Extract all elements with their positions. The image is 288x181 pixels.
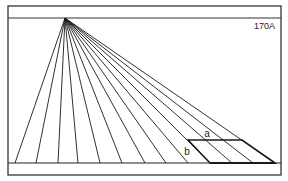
perspective-fan-diagram: 170A a b bbox=[0, 0, 288, 181]
fan-line bbox=[65, 18, 78, 163]
label-b: b bbox=[184, 146, 190, 157]
fan-line bbox=[65, 18, 232, 163]
fan-lines bbox=[15, 18, 275, 163]
highlighted-grid-cell bbox=[188, 140, 275, 163]
fan-line bbox=[65, 18, 145, 163]
fan-line bbox=[58, 18, 65, 163]
figure-id-label: 170A bbox=[254, 21, 275, 31]
outer-frame bbox=[8, 6, 281, 175]
label-a: a bbox=[204, 128, 210, 139]
fan-line bbox=[65, 18, 100, 163]
grid-cell-outline bbox=[188, 140, 275, 163]
fan-line bbox=[65, 18, 166, 163]
